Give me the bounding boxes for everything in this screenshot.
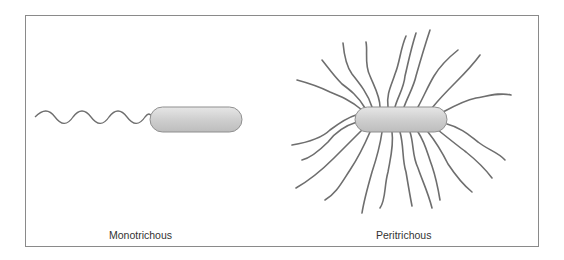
monotrichous-bacterium: [35, 107, 242, 132]
bacteria-diagram: [0, 0, 564, 260]
cell-body: [150, 107, 242, 132]
label-peritrichous: Peritrichous: [376, 229, 431, 241]
label-monotrichous: Monotrichous: [109, 229, 172, 241]
cell-body: [355, 107, 447, 132]
flagellum: [35, 111, 152, 123]
